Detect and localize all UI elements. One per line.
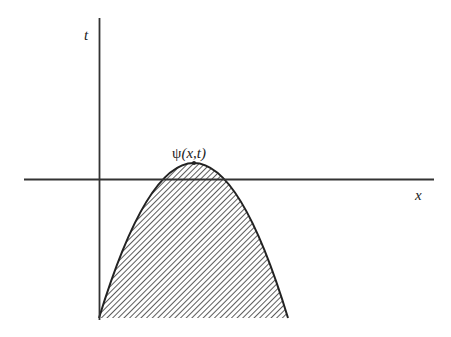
peak-point <box>192 161 196 165</box>
diagram-canvas: t x ψ(x,t) <box>0 0 451 337</box>
x-axis-label: x <box>414 187 422 203</box>
psi-label: ψ(x,t) <box>172 145 206 162</box>
psi-arguments: (x,t) <box>181 145 206 162</box>
t-axis-label: t <box>84 27 89 43</box>
